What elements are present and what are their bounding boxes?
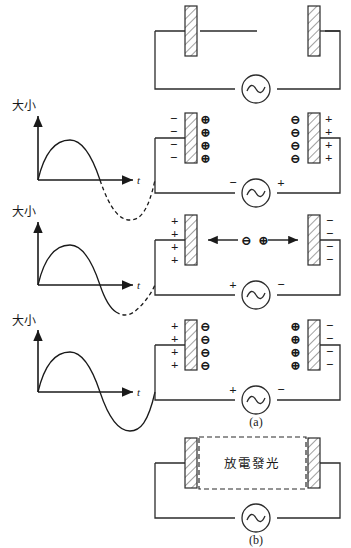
- circuit-2-right-plate: [308, 113, 320, 163]
- circuit-4-left-plate-inner-signs: ⊖ ⊖ ⊖ ⊖: [200, 319, 211, 373]
- circuit-4-left-plate: [185, 320, 197, 370]
- circuit-1-ac-source: [242, 75, 270, 103]
- circuit-b-right-plate: [308, 438, 320, 488]
- svg-text:⊕: ⊕: [200, 151, 211, 166]
- circuit-3-right-plate: [308, 215, 320, 265]
- circuit-4-left-plate-outer-signs: + + + +: [171, 318, 178, 372]
- circuit-2-right-plate-outer-signs: + + + +: [325, 111, 332, 165]
- circuit-4-ac-source: [242, 386, 270, 414]
- circuit-4-source-right-sign: −: [277, 382, 284, 397]
- circuit-3-source-right-sign: −: [277, 277, 284, 292]
- circuit-3-source-left-sign: +: [229, 277, 236, 292]
- panel-a-label: (a): [249, 415, 262, 429]
- waveform-1-y-label: 大小: [12, 99, 36, 113]
- circuit-2-right-plate-inner-signs: ⊖ ⊖ ⊖ ⊖: [290, 112, 301, 166]
- canvas-background: [0, 0, 351, 548]
- circuit-b-left-plate: [185, 438, 197, 488]
- circuit-b-ac-source: [242, 504, 270, 532]
- migration-positive-charge: ⊕: [258, 233, 269, 248]
- svg-text:+: +: [171, 252, 178, 267]
- circuit-2-source-right-sign: +: [277, 175, 284, 190]
- svg-text:⊖: ⊖: [200, 358, 211, 373]
- circuit-4-right-plate-outer-signs: − − − −: [326, 318, 333, 372]
- svg-text:−: −: [326, 252, 333, 267]
- circuit-2-left-plate-inner-signs: ⊕ ⊕ ⊕ ⊕: [200, 112, 211, 166]
- circuit-1-left-plate: [185, 6, 197, 56]
- svg-text:⊖: ⊖: [290, 151, 301, 166]
- circuit-3-ac-source: [242, 281, 270, 309]
- svg-text:−: −: [326, 357, 333, 372]
- circuit-2-source-left-sign: −: [229, 175, 236, 190]
- circuit-3-left-plate-outer-signs: + + + +: [171, 213, 178, 267]
- migration-negative-charge: ⊖: [241, 233, 252, 248]
- circuit-4-right-plate-inner-signs: ⊕ ⊕ ⊕ ⊕: [290, 319, 301, 373]
- svg-text:+: +: [171, 357, 178, 372]
- svg-text:+: +: [325, 150, 332, 165]
- circuit-2-ac-source: [242, 179, 270, 207]
- svg-text:⊕: ⊕: [290, 358, 301, 373]
- circuit-4-source-left-sign: +: [229, 382, 236, 397]
- circuit-3-right-plate-outer-signs: − − − −: [326, 213, 333, 267]
- discharge-lamp-figure: 大小 t 大小 t 大小 t: [0, 0, 351, 548]
- panel-b-label: (b): [249, 533, 263, 547]
- circuit-3-left-plate: [185, 215, 197, 265]
- waveform-3-y-label: 大小: [12, 314, 36, 328]
- glow-region-label: 放電發光: [224, 456, 280, 471]
- circuit-4-right-plate: [308, 320, 320, 370]
- circuit-2-left-plate: [185, 113, 197, 163]
- circuit-1-right-plate: [308, 6, 320, 56]
- circuit-2-left-plate-outer-signs: − − − −: [170, 111, 177, 165]
- waveform-2-y-label: 大小: [12, 205, 36, 219]
- svg-text:−: −: [170, 150, 177, 165]
